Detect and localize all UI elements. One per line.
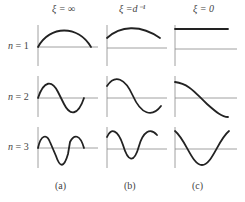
curve-c-n2 — [175, 82, 228, 117]
curve-c-n3 — [175, 131, 229, 165]
col-label-c: (c) — [192, 180, 203, 191]
curve-b-n2 — [107, 79, 161, 113]
axes — [38, 25, 237, 168]
curve-b-n1 — [107, 28, 160, 38]
curve-b-n3 — [107, 131, 157, 158]
mode-shapes-diagram — [0, 0, 245, 202]
curve-a-n1 — [38, 31, 91, 48]
col-label-b: (b) — [124, 180, 136, 191]
curve-a-n3 — [38, 137, 84, 165]
col-label-a: (a) — [55, 180, 66, 191]
